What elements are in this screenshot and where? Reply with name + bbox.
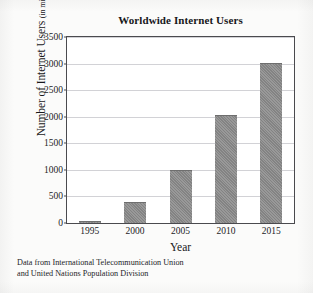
bar: [260, 63, 282, 223]
bar: [170, 170, 192, 223]
x-axis-title: Year: [66, 241, 295, 253]
y-axis-tick-label: 500: [49, 191, 63, 201]
y-axis-tick-label: 0: [58, 218, 63, 228]
bar: [124, 202, 146, 223]
y-axis-tick-mark: [64, 223, 67, 224]
y-axis-tick-label: 2000: [44, 112, 63, 122]
plot-area: 0500100015002000250030003500199520002005…: [66, 36, 295, 224]
gridline: [67, 37, 294, 38]
y-axis-tick-mark: [64, 196, 67, 197]
x-axis-tick-label: 2000: [126, 226, 145, 236]
y-axis-title: Number of Internet Users (in millions): [31, 0, 49, 153]
chart-figure: Worldwide Internet Users Number of Inter…: [0, 0, 313, 293]
y-axis-tick-mark: [64, 143, 67, 144]
y-axis-tick-mark: [64, 37, 67, 38]
y-axis-tick-label: 3500: [44, 32, 63, 42]
y-axis-tick-label: 3000: [44, 59, 63, 69]
source-note-line-2: and United Nations Population Division: [17, 269, 184, 280]
y-axis-tick-label: 1500: [44, 138, 63, 148]
x-axis-tick-label: 2015: [262, 226, 281, 236]
bar: [79, 221, 101, 223]
y-axis-tick-mark: [64, 63, 67, 64]
chart-title: Worldwide Internet Users: [66, 14, 295, 26]
y-axis-title-units: (in millions): [38, 0, 47, 18]
y-axis-tick-mark: [64, 90, 67, 91]
y-axis-tick-mark: [64, 169, 67, 170]
source-note: Data from International Telecommunicatio…: [17, 258, 184, 279]
x-axis-tick-label: 2010: [216, 226, 235, 236]
bar: [215, 115, 237, 223]
y-axis-tick-label: 2500: [44, 85, 63, 95]
y-axis-tick-label: 1000: [44, 165, 63, 175]
x-axis-tick-label: 2005: [171, 226, 190, 236]
y-axis-tick-mark: [64, 116, 67, 117]
x-axis-tick-label: 1995: [80, 226, 99, 236]
source-note-line-1: Data from International Telecommunicatio…: [17, 258, 184, 269]
